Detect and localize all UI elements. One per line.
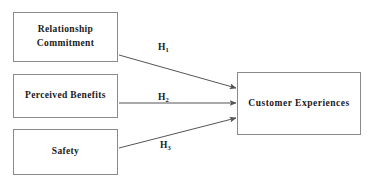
hypothesis-subscript-h3: 3 [167,144,170,151]
hypothesis-label-h3: H3 [160,140,171,150]
node-perceived-benefits: Perceived Benefits [13,74,118,118]
node-label-relationship-commitment: Relationship Commitment [37,23,94,51]
node-label-perceived-benefits: Perceived Benefits [25,89,106,103]
hypothesis-subscript-h2: 2 [165,96,168,103]
hypothesis-subscript-h1: 1 [165,46,168,53]
node-safety: Safety [13,129,118,175]
arrow-h3 [119,118,236,148]
node-label-customer-experiences: Customer Experiences [248,97,349,111]
node-relationship-commitment: Relationship Commitment [13,12,118,62]
node-customer-experiences: Customer Experiences [237,72,361,135]
research-model-diagram: Relationship Commitment Perceived Benefi… [0,0,373,191]
hypothesis-label-h2: H2 [158,92,169,102]
hypothesis-label-h1: H1 [158,42,169,52]
arrow-h1 [119,55,236,88]
node-label-safety: Safety [52,145,79,159]
